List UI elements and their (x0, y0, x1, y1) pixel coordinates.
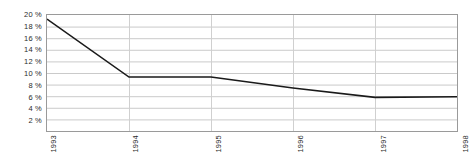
y-tick-label: 2 % (28, 117, 42, 125)
x-tick-label: 1997 (380, 135, 388, 153)
y-axis: 20 %18 %16 %14 %12 %10 %8 %6 %4 %2 % (0, 14, 42, 132)
x-tick-label: 1998 (462, 135, 470, 153)
line-chart: 20 %18 %16 %14 %12 %10 %8 %6 %4 %2 % 199… (0, 0, 472, 168)
x-axis: 199319941995199619971998 (46, 133, 458, 168)
y-tick-label: 16 % (24, 35, 42, 43)
x-tick-label: 1995 (215, 135, 223, 153)
x-tick-label: 1996 (297, 135, 305, 153)
y-tick-label: 14 % (24, 47, 42, 55)
y-tick-label: 4 % (28, 106, 42, 114)
y-tick-label: 8 % (28, 82, 42, 90)
y-tick-label: 20 % (24, 11, 42, 19)
y-tick-label: 10 % (24, 70, 42, 78)
x-tick-label: 1993 (50, 135, 58, 153)
x-tick-label: 1994 (132, 135, 140, 153)
y-tick-label: 6 % (28, 94, 42, 102)
y-tick-label: 18 % (24, 23, 42, 31)
plot-area (46, 14, 458, 132)
y-tick-label: 12 % (24, 58, 42, 66)
data-series-line (47, 15, 457, 131)
